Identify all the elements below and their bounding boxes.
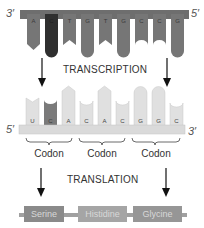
- dna-base-letter: G: [121, 18, 126, 24]
- dna-base-letter: T: [68, 18, 72, 24]
- amino-acid-histidine: Histidine: [78, 206, 127, 222]
- dna-strand: A C T G T G C C G: [0, 0, 204, 62]
- codon-label: Codon: [79, 148, 125, 159]
- mrna-5prime-label: 5′: [6, 123, 14, 135]
- codon-label: Codon: [26, 148, 72, 159]
- mrna-base-letter: A: [66, 118, 70, 124]
- codon-brace: [132, 138, 180, 145]
- peptide-bond: [64, 213, 79, 217]
- translation-label: TRANSLATION: [67, 174, 138, 185]
- dna-base-letter: C: [139, 18, 144, 24]
- translation-arrow-right: [161, 168, 171, 198]
- amino-acid-glycine: Glycine: [133, 206, 182, 222]
- mrna-base-letter: A: [102, 118, 106, 124]
- mrna-backbone: [19, 125, 185, 134]
- peptide-bond: [182, 213, 187, 217]
- mrna-base-letter: C: [48, 118, 53, 124]
- dna-base-letter: G: [175, 18, 180, 24]
- mrna-base-letter: G: [156, 118, 161, 124]
- mrna-base-g: [134, 87, 147, 132]
- codon-brace: [79, 138, 125, 145]
- transcription-label: TRANSCRIPTION: [63, 64, 147, 75]
- dna-base-letter: A: [31, 18, 35, 24]
- mrna-base-letter: C: [84, 118, 89, 124]
- mrna-base-g: [152, 87, 165, 132]
- translation-arrow-left: [36, 168, 46, 198]
- dna-base-letter: T: [104, 18, 108, 24]
- codon-brace: [26, 138, 72, 145]
- mrna-base-a: [62, 86, 75, 131]
- dna-base-letter: G: [85, 18, 90, 24]
- mrna-base-letter: U: [30, 118, 34, 124]
- mrna-base-letter: G: [138, 118, 143, 124]
- mrna-base-letter: C: [174, 118, 179, 124]
- dna-base-letter: C: [49, 18, 54, 24]
- mrna-base-a: [98, 86, 111, 131]
- codon-braces: [0, 136, 204, 148]
- mrna-strand: U C A C A C G G C: [0, 84, 204, 138]
- amino-acid-serine: Serine: [24, 206, 64, 222]
- mrna-base-letter: C: [120, 118, 125, 124]
- dna-base-letter: C: [157, 18, 162, 24]
- codon-label: Codon: [133, 148, 179, 159]
